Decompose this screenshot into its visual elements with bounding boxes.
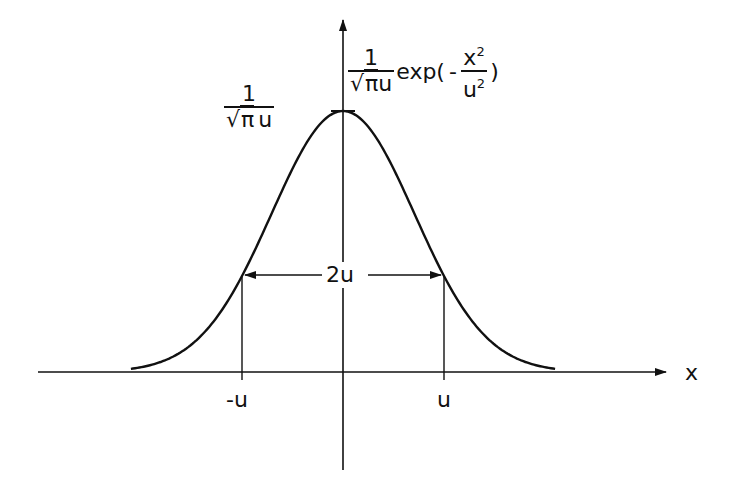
tick-label-u: u [437, 389, 451, 411]
peak-height-label: 1 √πu [224, 82, 274, 132]
exp-function: exp( [396, 59, 445, 84]
tick-label-minus-u: -u [226, 389, 248, 411]
width-label: 2u [326, 264, 354, 286]
formula-prefactor: 1 √πu [348, 46, 394, 96]
x-axis-label: x [685, 362, 698, 384]
formula-label: 1 √πu exp( - x2 u2 ) [348, 40, 499, 102]
formula-exponent-fraction: x2 u2 [461, 40, 487, 102]
